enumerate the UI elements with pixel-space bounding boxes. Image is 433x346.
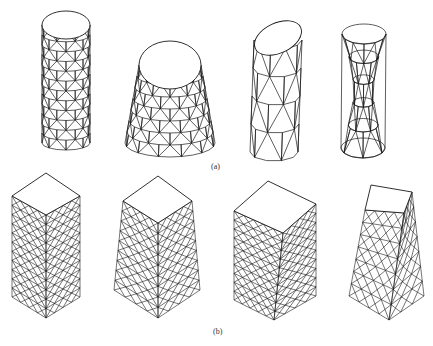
row-b-caption: (b): [213, 327, 222, 336]
hyperboloid-shape: [341, 24, 386, 158]
tilted-cylinder-shape: [249, 14, 307, 161]
square-prism-shape: [12, 173, 80, 318]
diagram-canvas: [0, 0, 433, 346]
row-a-caption: (a): [211, 162, 220, 171]
rectangular-prism-shape: [234, 181, 316, 320]
tapered-wedge-prism-shape: [349, 185, 424, 320]
cylinder-shape: [42, 11, 90, 150]
tapered-square-prism-shape: [114, 176, 200, 318]
truncated-cone-shape: [125, 41, 215, 157]
